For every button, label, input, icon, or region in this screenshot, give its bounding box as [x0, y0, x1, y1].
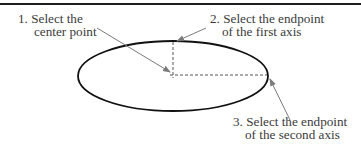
step-1-label: 1. Select the center point [18, 12, 97, 38]
step-1-line-2: center point [18, 25, 97, 38]
ellipse-shape [78, 41, 268, 111]
step-2-label: 2. Select the endpoint of the first axis [210, 12, 324, 38]
step-2-line-2: of the first axis [210, 25, 324, 38]
step-3-line-2: of the second axis [233, 128, 347, 141]
arrow-first-axis-endpoint [177, 28, 206, 41]
step-3-label: 3. Select the endpoint of the second axi… [233, 115, 347, 141]
